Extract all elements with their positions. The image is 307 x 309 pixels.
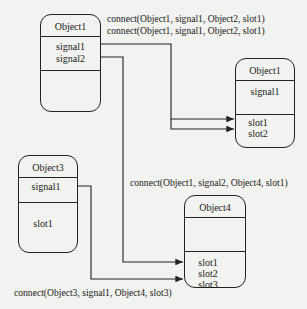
wire-obj3-signal1-to-obj4-slot3 <box>78 186 183 279</box>
wire-obj1-signal1-to-obj2-slot2 <box>171 119 234 129</box>
connection-wires <box>0 0 307 309</box>
wire-obj1-signal1-to-obj2-slot1 <box>101 44 234 119</box>
